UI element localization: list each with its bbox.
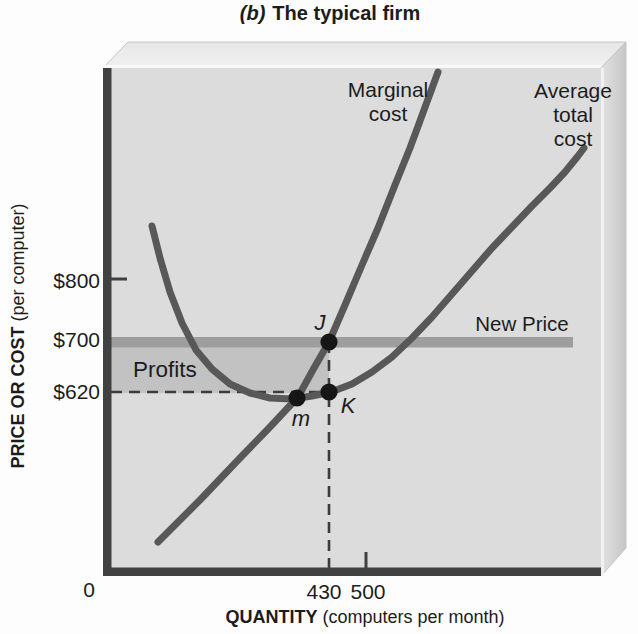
y-tick-700: $700 xyxy=(53,328,100,351)
y-axis-title-bold: PRICE OR COST xyxy=(8,327,28,469)
x-axis-title: QUANTITY(computers per month) xyxy=(225,607,504,627)
y-tick-800-mark xyxy=(111,278,127,281)
point-m-label: m xyxy=(292,406,310,431)
average-total-cost-label-line1: Average xyxy=(534,79,612,102)
y-tick-800: $800 xyxy=(53,269,100,292)
new-price-line xyxy=(111,337,573,348)
x-axis xyxy=(103,568,601,577)
new-price-label: New Price xyxy=(475,312,568,335)
x-axis-title-bold: QUANTITY xyxy=(225,607,317,627)
average-total-cost-label-line3: cost xyxy=(554,127,593,150)
figure-title-prefix: (b) xyxy=(240,2,266,24)
figure-panel-b: (b)The typical firm Marginal cost Averag… xyxy=(0,0,638,634)
x-tick-430: 430 xyxy=(306,580,341,603)
point-k-label: K xyxy=(341,393,357,418)
box-right-face xyxy=(601,42,626,576)
x-tick-500-mark xyxy=(365,552,368,568)
marginal-cost-label-line2: cost xyxy=(369,102,408,125)
figure-title: (b)The typical firm xyxy=(240,2,420,24)
x-tick-0: 0 xyxy=(83,578,95,601)
y-axis xyxy=(103,68,112,576)
profits-label: Profits xyxy=(133,357,197,382)
x-axis-title-normal: (computers per month) xyxy=(322,607,504,627)
box-top-face xyxy=(103,42,626,68)
marginal-cost-label-line1: Marginal xyxy=(348,78,429,101)
point-j-label: J xyxy=(314,310,327,335)
y-axis-title: PRICE OR COST(per computer) xyxy=(8,203,28,468)
point-j-dot xyxy=(320,333,337,350)
point-m-dot xyxy=(288,389,305,406)
average-total-cost-label-line2: total xyxy=(553,103,593,126)
point-k-dot xyxy=(320,383,337,400)
supply-cost-chart: (b)The typical firm Marginal cost Averag… xyxy=(0,0,638,634)
y-tick-620: $620 xyxy=(53,380,100,403)
x-tick-500: 500 xyxy=(350,580,385,603)
figure-title-text: The typical firm xyxy=(272,2,420,24)
y-axis-title-normal: (per computer) xyxy=(8,203,28,321)
